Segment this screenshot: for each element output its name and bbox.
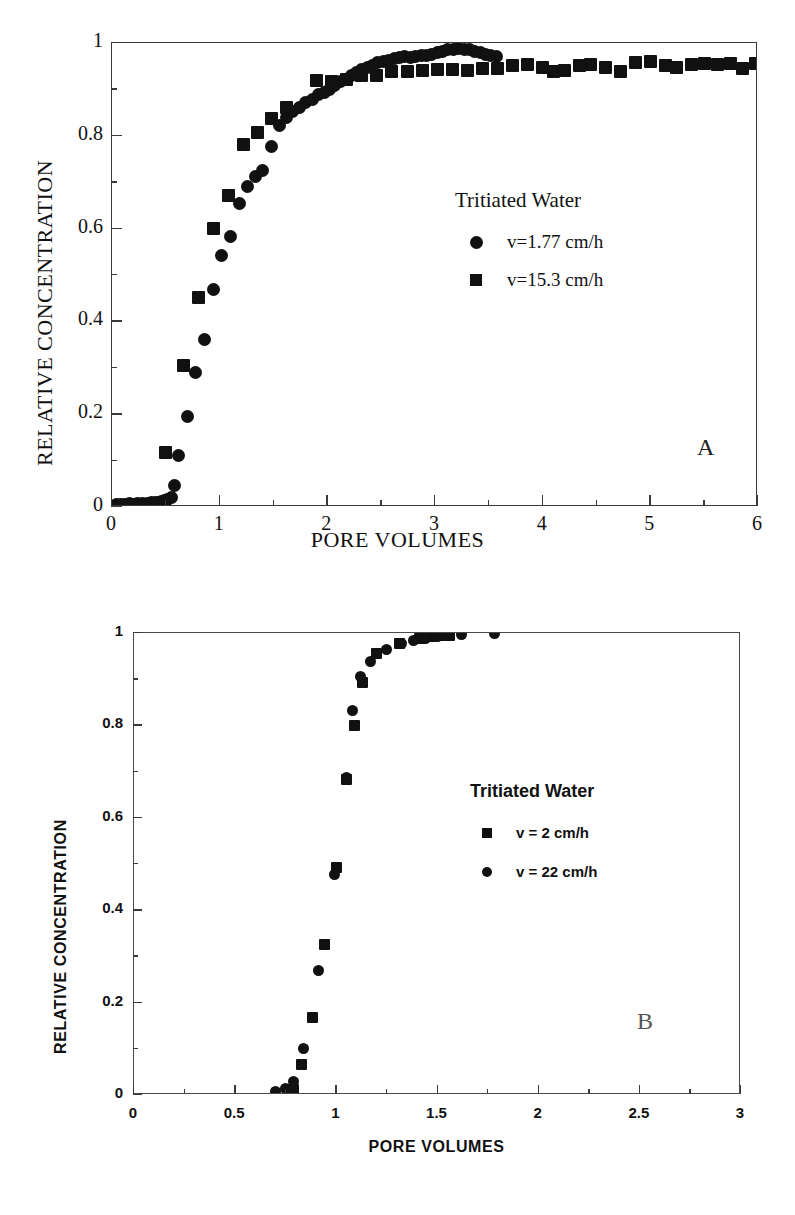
data-point-square <box>159 446 172 459</box>
axis-tick <box>596 500 597 506</box>
data-point-circle <box>365 656 376 667</box>
data-point-circle <box>456 633 467 640</box>
axis-tick <box>542 495 543 506</box>
axis-tick <box>133 632 142 633</box>
panel-a-legend: Tritiated Water v=1.77 cm/h v=15.3 cm/h <box>455 188 603 291</box>
data-point-square <box>558 64 571 77</box>
data-point-square <box>307 1012 318 1023</box>
axis-tick <box>689 1089 690 1094</box>
data-point-square <box>340 73 353 86</box>
data-point-square <box>599 61 612 74</box>
axis-tick <box>234 1085 235 1094</box>
data-point-square <box>296 1059 307 1070</box>
x-tick-label: 2 <box>498 1104 578 1121</box>
data-point-square <box>237 138 250 151</box>
data-point-circle <box>168 479 181 492</box>
axis-tick <box>488 500 489 506</box>
panel-a-plot-frame <box>111 42 757 506</box>
circle-marker-icon <box>482 867 492 877</box>
data-point-circle <box>207 283 220 296</box>
axis-tick <box>133 724 142 725</box>
data-point-square <box>349 720 360 731</box>
panel-a-legend-entry-circle: v=1.77 cm/h <box>455 231 603 253</box>
axis-tick <box>219 495 220 506</box>
axis-tick <box>386 1089 387 1094</box>
axis-tick <box>133 817 142 818</box>
data-point-square <box>476 62 489 75</box>
data-point-square <box>736 62 749 75</box>
axis-tick <box>111 42 122 43</box>
data-point-square <box>431 63 444 76</box>
data-point-circle <box>329 869 340 880</box>
data-point-circle <box>341 772 352 783</box>
x-tick-label: 2.5 <box>599 1104 679 1121</box>
axis-tick <box>133 1048 138 1049</box>
data-point-square <box>446 63 459 76</box>
data-point-circle <box>288 1076 299 1087</box>
axis-tick <box>703 500 704 506</box>
panel-b-x-axis-title: PORE VOLUMES <box>133 1138 740 1156</box>
data-point-circle <box>256 164 269 177</box>
data-point-square <box>724 57 737 70</box>
panel-b-legend-label-1: v = 22 cm/h <box>516 863 597 880</box>
axis-tick <box>588 1089 589 1094</box>
data-point-square <box>584 58 597 71</box>
panel-b: 00.511.522.5300.20.40.60.81 PORE VOLUMES… <box>0 575 795 1215</box>
axis-tick <box>184 1089 185 1094</box>
axis-tick <box>740 1085 741 1094</box>
data-point-circle <box>172 449 185 462</box>
axis-tick <box>434 495 435 506</box>
axis-tick <box>111 320 122 321</box>
y-tick-label: 0.8 <box>53 714 123 731</box>
y-tick-label: 1 <box>53 622 123 639</box>
panel-a-x-axis-title: PORE VOLUMES <box>0 527 795 553</box>
data-point-square <box>698 57 711 70</box>
data-point-circle <box>265 140 278 153</box>
axis-tick <box>111 88 117 89</box>
data-point-circle <box>181 410 194 423</box>
axis-tick <box>111 135 122 136</box>
axis-tick <box>757 495 758 506</box>
data-point-circle <box>313 965 324 976</box>
data-point-square <box>711 58 724 71</box>
axis-tick <box>273 500 274 506</box>
data-point-circle <box>347 705 358 716</box>
panel-b-legend-entry-circle: v = 22 cm/h <box>470 863 597 880</box>
figure-breakthrough-curves: 012345600.20.40.60.81 PORE VOLUMES RELAT… <box>0 0 795 1215</box>
axis-tick <box>111 181 117 182</box>
square-marker-icon <box>482 828 492 838</box>
data-point-square <box>401 65 414 78</box>
data-point-circle <box>396 638 407 649</box>
x-tick-label: 1.5 <box>397 1104 477 1121</box>
circle-marker-icon <box>470 236 483 249</box>
data-point-square <box>614 65 627 78</box>
data-point-square <box>177 359 190 372</box>
axis-tick <box>165 500 166 506</box>
data-point-circle <box>189 366 202 379</box>
axis-tick <box>335 1085 336 1094</box>
data-point-square <box>461 64 474 77</box>
data-point-square <box>629 56 642 69</box>
panel-b-legend-entry-square: v = 2 cm/h <box>470 824 597 841</box>
data-point-circle <box>381 644 392 655</box>
panel-b-letter: B <box>637 1008 653 1035</box>
panel-a: 012345600.20.40.60.81 PORE VOLUMES RELAT… <box>0 0 795 575</box>
axis-tick <box>487 1089 488 1094</box>
data-point-circle <box>215 249 228 262</box>
data-point-square <box>207 222 220 235</box>
data-point-square <box>491 62 504 75</box>
data-point-square <box>310 74 323 87</box>
axis-tick <box>133 771 138 772</box>
panel-a-legend-title: Tritiated Water <box>455 188 603 213</box>
data-point-square <box>319 939 330 950</box>
data-point-circle <box>408 635 419 646</box>
data-point-circle <box>420 633 431 644</box>
axis-tick <box>133 955 138 956</box>
data-point-circle <box>165 491 178 504</box>
data-point-square <box>521 58 534 71</box>
panel-a-legend-label-0: v=1.77 cm/h <box>507 231 603 253</box>
axis-tick <box>111 274 117 275</box>
data-point-square <box>370 69 383 82</box>
data-point-square <box>506 59 519 72</box>
data-point-square <box>385 65 398 78</box>
